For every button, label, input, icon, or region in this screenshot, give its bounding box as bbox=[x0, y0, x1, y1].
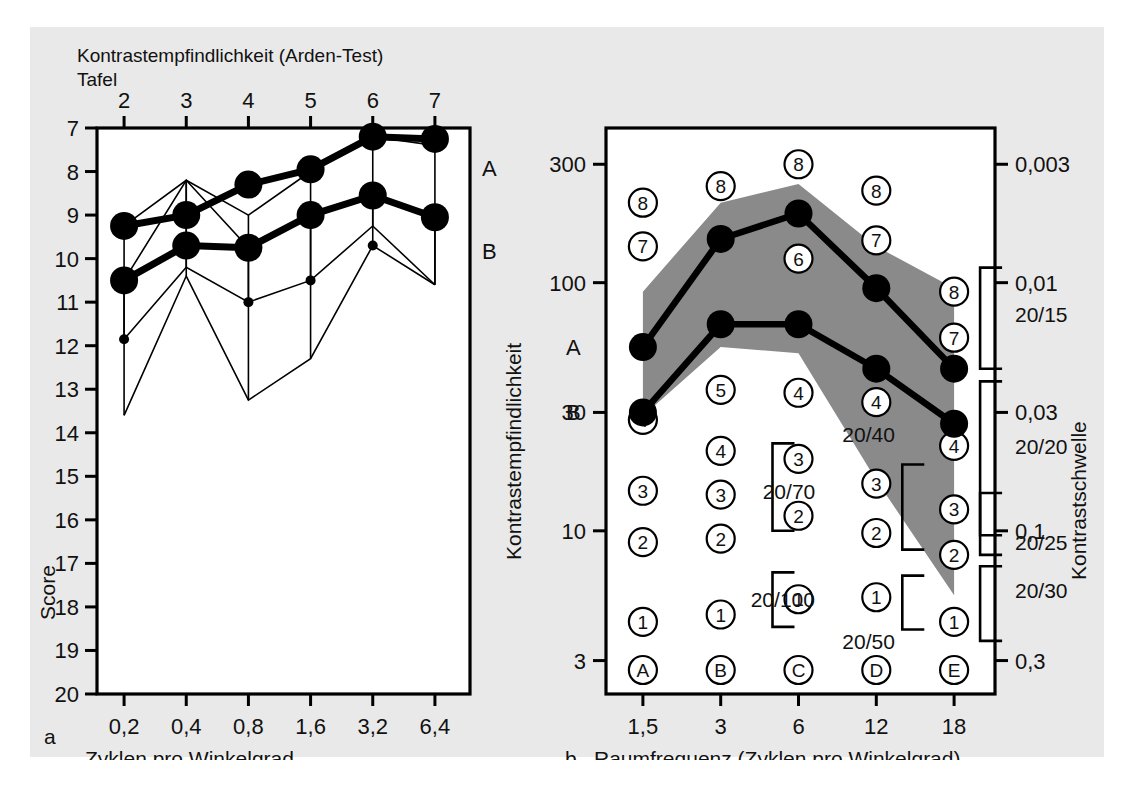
panel-b-score-circle-label: 2 bbox=[793, 506, 804, 527]
panel-b-score-circle-label: 4 bbox=[715, 441, 726, 462]
panel-b-score-circle-label: 7 bbox=[638, 236, 649, 257]
panel-b-score-circle: 3 bbox=[862, 470, 890, 498]
panel-b-score-circle-label: 3 bbox=[871, 474, 882, 495]
panel-b-acuity-20-20: 20/20 bbox=[1015, 435, 1068, 458]
panel-a-y-tick-label: 7 bbox=[67, 116, 79, 141]
panel-a-x-tick-label: 0,8 bbox=[233, 714, 264, 739]
panel-b-column-letter: B bbox=[707, 656, 735, 684]
panel-b-y-tick-label-left: 100 bbox=[549, 271, 586, 296]
panel-a-y-tick-label: 16 bbox=[55, 508, 79, 533]
panel-b-score-circle: 3 bbox=[940, 495, 968, 523]
panel-b-score-circle: 8 bbox=[940, 278, 968, 306]
panel-a-small-marker bbox=[243, 297, 253, 307]
panel-b-series-a-marker bbox=[707, 225, 735, 253]
panel-b-score-circle: 2 bbox=[862, 519, 890, 547]
panel-a-y-tick-label: 10 bbox=[55, 247, 79, 272]
panel-b-series-b-marker bbox=[862, 355, 890, 383]
panel-b-score-circle-label: 2 bbox=[871, 523, 882, 544]
panel-b-series-a-label: A bbox=[566, 335, 581, 360]
panel-b-score-circle: 8 bbox=[862, 177, 890, 205]
panel-b-score-circle-label: 3 bbox=[715, 485, 726, 506]
panel-b-acuity-20-30: 20/30 bbox=[1015, 579, 1068, 602]
panel-b-x-tick-label: 12 bbox=[864, 714, 888, 739]
panel-b-score-circle: 2 bbox=[785, 502, 813, 530]
panel-b-y-tick-label-right: 0,03 bbox=[1015, 400, 1058, 425]
panel-b-y-tick-label-right: 0,01 bbox=[1015, 271, 1058, 296]
panel-a-series-a-label: A bbox=[482, 156, 497, 181]
panel-b-score-circle: 5 bbox=[707, 376, 735, 404]
panel-b-score-circle: 8 bbox=[629, 189, 657, 217]
panel-b-score-circle: 3 bbox=[785, 445, 813, 473]
panel-b-score-circle-label: 7 bbox=[949, 328, 960, 349]
panel-a-series-a-marker bbox=[297, 155, 325, 183]
panel-b-score-circle-label: 8 bbox=[715, 176, 726, 197]
panel-b-column-letter: C bbox=[785, 656, 813, 684]
panel-b-score-circle: 4 bbox=[785, 379, 813, 407]
panel-b-score-circle-label: 8 bbox=[638, 193, 649, 214]
panel-b-score-circle: 2 bbox=[707, 525, 735, 553]
panel-a-x-tick-label: 3,2 bbox=[357, 714, 388, 739]
panel-b-series-a-marker bbox=[862, 274, 890, 302]
panel-b-column-letter: E bbox=[940, 656, 968, 684]
panel-b-acuity-20-25: 20/25 bbox=[1015, 531, 1068, 554]
panel-b-column-letter: A bbox=[629, 656, 657, 684]
panel-a-top-tick-label: 4 bbox=[242, 88, 254, 113]
panel-b-score-circle: 8 bbox=[785, 150, 813, 178]
panel-b-score-circle-label: 2 bbox=[949, 545, 960, 566]
panel-a-series-a-marker bbox=[359, 123, 387, 151]
panel-b-score-circle-label: 2 bbox=[638, 532, 649, 553]
panel-b-series-b-marker bbox=[785, 310, 813, 338]
panel-b-x-tick-label: 3 bbox=[715, 714, 727, 739]
panel-a-y-tick-label: 13 bbox=[55, 377, 79, 402]
panel-a-y-tick-label: 9 bbox=[67, 203, 79, 228]
panel-a-top-tick-label: 3 bbox=[180, 88, 192, 113]
panel-b-score-circle-label: 8 bbox=[949, 282, 960, 303]
panel-a-title: Kontrastempfindlichkeit (Arden-Test) bbox=[77, 45, 383, 66]
panel-b-score-circle: 3 bbox=[707, 481, 735, 509]
panel-b-y-axis-label-right: Kontrastschwelle bbox=[1067, 421, 1090, 580]
panel-a-small-marker bbox=[306, 275, 316, 285]
panel-a-letter: a bbox=[44, 725, 56, 748]
scientific-figure: Kontrastempfindlichkeit (Arden-Test)Tafe… bbox=[0, 0, 1134, 799]
panel-b-score-circle: 1 bbox=[940, 608, 968, 636]
panel-a-series-b-marker bbox=[234, 234, 262, 262]
panel-b-score-circle: 7 bbox=[629, 232, 657, 260]
panel-a-top-tick-label: 6 bbox=[367, 88, 379, 113]
panel-b-y-tick-label-left: 10 bbox=[562, 519, 586, 544]
panel-a-small-marker bbox=[119, 334, 129, 344]
panel-b-score-circle: 7 bbox=[862, 226, 890, 254]
panel-b-column-letter-label: C bbox=[792, 660, 806, 681]
panel-b-score-circle: 8 bbox=[707, 172, 735, 200]
panel-b-y-tick-label-left: 300 bbox=[549, 152, 586, 177]
panel-a-series-a-marker bbox=[110, 212, 138, 240]
panel-a-series-b-marker bbox=[297, 201, 325, 229]
panel-b-score-circle: 4 bbox=[862, 388, 890, 416]
panel-b-score-circle-label: 1 bbox=[638, 612, 649, 633]
panel-b-x-tick-label: 6 bbox=[792, 714, 804, 739]
panel-b-acuity-20-100: 20/100 bbox=[751, 588, 815, 611]
panel-b-column-letter: D bbox=[862, 656, 890, 684]
panel-b-score-circle: 6 bbox=[785, 245, 813, 273]
panel-a-series-b-label: B bbox=[482, 239, 497, 264]
panel-a-y-tick-label: 14 bbox=[55, 421, 79, 446]
panel-b-y-tick-label-right: 0,3 bbox=[1015, 649, 1046, 674]
panel-a-top-tick-label: 5 bbox=[304, 88, 316, 113]
panel-b-score-circle: 1 bbox=[707, 601, 735, 629]
panel-a-x-tick-label: 1,6 bbox=[295, 714, 326, 739]
panel-b-score-circle-label: 3 bbox=[793, 449, 804, 470]
bottom-caption-text bbox=[30, 760, 1104, 768]
panel-a-series-b-marker bbox=[359, 181, 387, 209]
figure-container: Kontrastempfindlichkeit (Arden-Test)Tafe… bbox=[0, 0, 1134, 799]
panel-b-series-b-marker bbox=[707, 310, 735, 338]
panel-a-x-tick-label: 6,4 bbox=[420, 714, 451, 739]
panel-b-column-letter-label: B bbox=[714, 660, 727, 681]
panel-a-series-b-marker bbox=[110, 266, 138, 294]
panel-b-score-circle: 1 bbox=[862, 583, 890, 611]
panel-b-acuity-20-15: 20/15 bbox=[1015, 303, 1068, 326]
panel-b-score-circle: 2 bbox=[629, 528, 657, 556]
panel-a-series-a-marker bbox=[421, 125, 449, 153]
panel-b-score-circle-label: 1 bbox=[871, 587, 882, 608]
panel-a-top-tick-label: 2 bbox=[118, 88, 130, 113]
panel-b-score-circle: 2 bbox=[940, 541, 968, 569]
panel-b-series-a-marker bbox=[940, 355, 968, 383]
